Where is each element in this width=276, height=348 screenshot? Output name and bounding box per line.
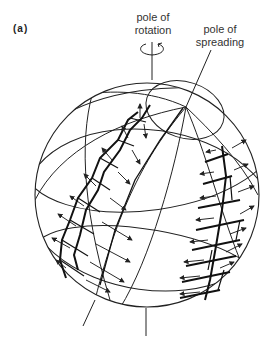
spreading-axis — [186, 50, 211, 107]
globe-diagram — [0, 0, 276, 348]
left-ridge — [52, 104, 183, 292]
